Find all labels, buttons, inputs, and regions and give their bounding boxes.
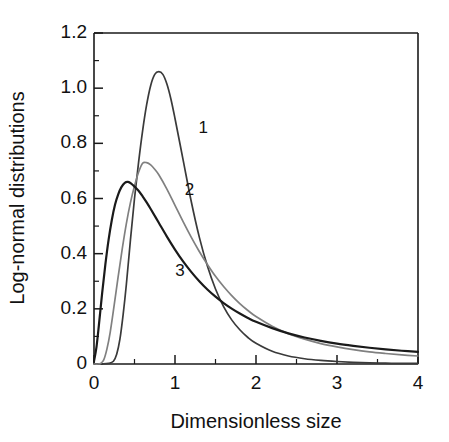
- axes-group: [94, 33, 418, 364]
- series-annotation-1: 1: [199, 118, 208, 137]
- y-tick-label: 0.4: [61, 242, 88, 263]
- figure-container: 00.20.40.60.81.01.201234 123 Dimensionle…: [0, 0, 449, 442]
- x-axis-title: Dimensionless size: [170, 410, 341, 432]
- x-tick-label: 4: [413, 372, 424, 393]
- y-tick-label: 0.6: [61, 187, 87, 208]
- x-tick-label: 1: [170, 372, 181, 393]
- data-series-curve-2: [94, 162, 418, 364]
- x-tick-label: 3: [332, 372, 343, 393]
- y-tick-label: 1.2: [61, 21, 87, 42]
- series-annotation-2: 2: [185, 180, 194, 199]
- series-annotation-3: 3: [175, 261, 184, 280]
- y-tick-label: 0.2: [61, 297, 87, 318]
- x-tick-label: 2: [251, 372, 262, 393]
- y-tick-label: 0: [76, 352, 87, 373]
- x-tick-label: 0: [89, 372, 100, 393]
- curves-group: [94, 72, 418, 364]
- y-tick-label: 0.8: [61, 131, 87, 152]
- y-tick-label: 1.0: [61, 76, 87, 97]
- y-axis-title: Log-normal distributions: [6, 91, 28, 304]
- ticks-group: [94, 33, 418, 364]
- chart-canvas: 00.20.40.60.81.01.201234 123 Dimensionle…: [0, 0, 449, 442]
- data-series-curve-1: [94, 72, 418, 364]
- data-series-curve-3: [94, 182, 418, 361]
